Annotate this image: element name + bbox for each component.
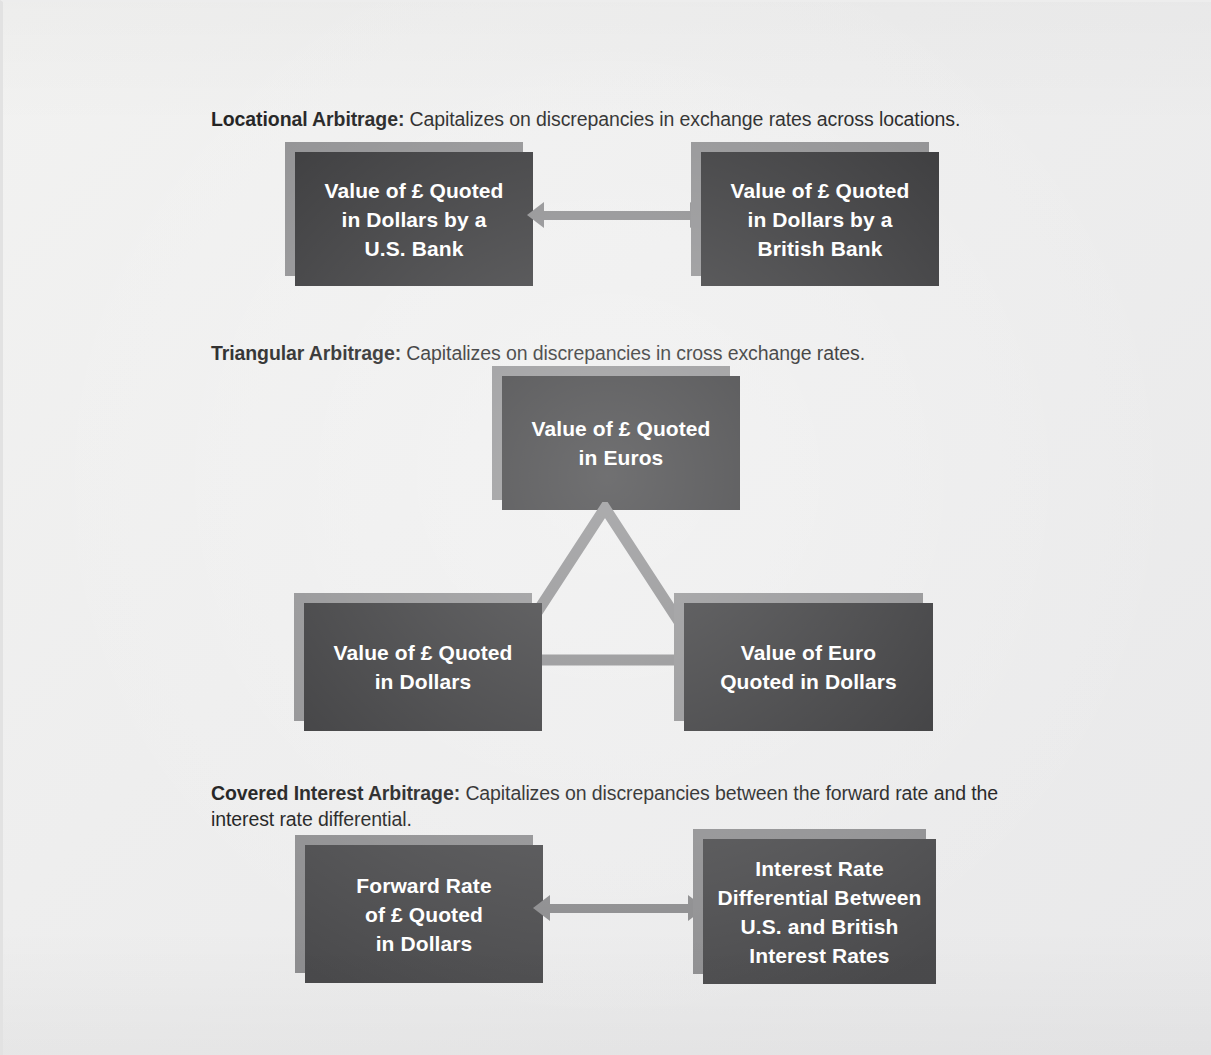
node-line: Quoted in Dollars	[720, 667, 897, 696]
node-line: in Dollars	[356, 929, 491, 958]
node-face: Value of £ Quoted in Dollars by a Britis…	[701, 152, 939, 286]
connector-arrow-covered-interest	[533, 895, 705, 921]
node-line: U.S. Bank	[324, 234, 503, 263]
node-line: Interest Rates	[718, 941, 922, 970]
section-description-triangular: Capitalizes on discrepancies in cross ex…	[401, 342, 865, 364]
node-face: Forward Rate of £ Quoted in Dollars	[305, 845, 543, 983]
section-lead-locational: Locational Arbitrage:	[211, 108, 404, 130]
node-cov-forward-rate: Forward Rate of £ Quoted in Dollars	[295, 835, 543, 983]
connector-arrow-locational	[527, 202, 707, 228]
section-lead-triangular: Triangular Arbitrage:	[211, 342, 401, 364]
section-heading-triangular: Triangular Arbitrage: Capitalizes on dis…	[211, 340, 1091, 366]
node-line: British Bank	[730, 234, 909, 263]
node-loc-us-bank: Value of £ Quoted in Dollars by a U.S. B…	[285, 142, 533, 286]
node-line: Value of £ Quoted	[324, 176, 503, 205]
node-line: Value of £ Quoted	[531, 414, 710, 443]
arrow-head-left-icon	[533, 895, 550, 921]
node-tri-pound-dollar: Value of £ Quoted in Dollars	[294, 593, 542, 731]
node-face: Value of £ Quoted in Euros	[502, 376, 740, 510]
node-tri-euros: Value of £ Quoted in Euros	[492, 366, 740, 510]
node-line: Interest Rate	[718, 854, 922, 883]
node-loc-british-bank: Value of £ Quoted in Dollars by a Britis…	[691, 142, 939, 286]
node-face: Value of £ Quoted in Dollars by a U.S. B…	[295, 152, 533, 286]
section-heading-covered-interest: Covered Interest Arbitrage: Capitalizes …	[211, 780, 1041, 832]
arrow-head-left-icon	[527, 202, 544, 228]
node-face: Value of £ Quoted in Dollars	[304, 603, 542, 731]
node-line: in Dollars by a	[730, 205, 909, 234]
scanned-page: Locational Arbitrage: Capitalizes on dis…	[0, 0, 1211, 1055]
node-line: in Dollars by a	[324, 205, 503, 234]
section-description-locational: Capitalizes on discrepancies in exchange…	[404, 108, 960, 130]
node-line: Value of £ Quoted	[333, 638, 512, 667]
section-heading-locational: Locational Arbitrage: Capitalizes on dis…	[211, 106, 1091, 132]
section-lead-covered-interest: Covered Interest Arbitrage:	[211, 782, 460, 804]
node-line: in Euros	[531, 443, 710, 472]
node-line: in Dollars	[333, 667, 512, 696]
node-line: U.S. and British	[718, 912, 922, 941]
node-tri-euro-dollar: Value of Euro Quoted in Dollars	[674, 593, 933, 731]
node-line: Value of Euro	[720, 638, 897, 667]
node-face: Interest Rate Differential Between U.S. …	[703, 839, 936, 984]
node-line: Value of £ Quoted	[730, 176, 909, 205]
node-line: Differential Between	[718, 883, 922, 912]
node-line: of £ Quoted	[356, 900, 491, 929]
node-face: Value of Euro Quoted in Dollars	[684, 603, 933, 731]
arrow-shaft	[550, 904, 688, 913]
arrow-shaft	[544, 211, 690, 220]
node-cov-rate-diff: Interest Rate Differential Between U.S. …	[693, 829, 936, 984]
node-line: Forward Rate	[356, 871, 491, 900]
